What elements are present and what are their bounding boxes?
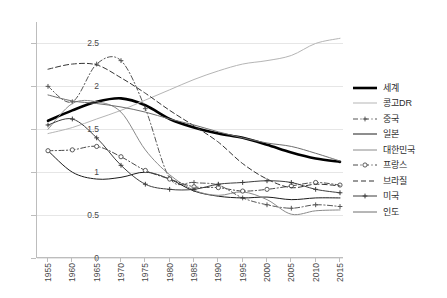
x-axis-tick-label: 1955 [43,263,53,282]
x-axis-tick-mark [242,258,243,262]
data-point-marker [70,117,75,122]
y-axis-tick-label: 0.5 [73,210,99,220]
data-point-marker [265,187,269,191]
series-5 [48,100,340,214]
legend-swatch-icon [352,113,378,125]
x-axis-tick-label: 1980 [165,263,175,282]
data-point-marker [241,189,245,193]
y-axis-tick-mark [31,86,36,87]
y-axis-tick-mark [31,215,36,216]
data-point-marker [338,204,343,209]
x-axis-tick-mark [217,258,218,262]
legend-item-label: 미국 [383,190,399,202]
data-point-marker [70,148,74,152]
x-axis-tick-mark [193,258,194,262]
x-axis-tick-mark [96,258,97,262]
legend-item-3[interactable]: 중국 [352,111,444,127]
y-axis-tick-mark [31,43,36,44]
legend-item-8[interactable]: 미국 [352,189,444,205]
legend-item-6[interactable]: 프랑스 [352,158,444,174]
data-point-marker [313,187,318,192]
legend-swatch-icon [352,190,378,202]
legend-item-2[interactable]: 콩고DR [352,96,444,112]
y-axis-tick-label: 2 [73,81,99,91]
x-axis-tick-label: 2000 [262,263,272,282]
series-line [48,100,340,214]
data-point-marker [143,182,148,187]
x-axis-tick-mark [144,258,145,262]
legend: 세계콩고DR중국일본대한민국프랑스브라질미국인도 [352,80,444,220]
x-axis-tick-label: 1975 [140,263,150,282]
x-axis-tick-label: 1965 [92,263,102,282]
data-point-marker [265,178,270,183]
x-axis-tick-mark [169,258,170,262]
y-axis-tick-mark [31,129,36,130]
plot-area [36,22,343,258]
legend-item-label: 세계 [383,82,399,94]
x-axis-tick-label: 1995 [238,263,248,282]
y-axis-tick-label: 1 [73,167,99,177]
y-axis-tick-mark [31,172,36,173]
legend-item-label: 대한민국 [383,144,415,156]
legend-item-4[interactable]: 일본 [352,127,444,143]
data-point-marker [265,202,270,207]
data-point-marker [338,190,343,195]
x-axis-tick-label: 1985 [189,263,199,282]
y-axis-tick-label: 2.5 [73,38,99,48]
data-point-marker [192,180,197,185]
x-axis-tick-label: 2005 [286,263,296,282]
data-point-marker [240,180,245,185]
data-point-marker [289,206,294,211]
y-axis-tick-mark [31,258,36,259]
data-point-marker [167,187,172,192]
x-axis-tick-mark [266,258,267,262]
legend-item-label: 일본 [383,128,399,140]
legend-swatch-icon [352,144,378,156]
x-axis-tick-mark [47,258,48,262]
data-point-marker [168,177,172,181]
x-axis-tick-mark [120,258,121,262]
x-axis-tick-label: 1960 [67,263,77,282]
legend-swatch-icon [352,128,378,140]
x-axis-tick-mark [71,258,72,262]
legend-swatch-icon [352,159,378,171]
legend-item-label: 인도 [383,206,399,218]
x-axis-tick-mark [315,258,316,262]
data-point-marker [95,144,99,148]
data-point-marker [119,155,123,159]
y-axis-tick-label: 1.5 [73,124,99,134]
legend-item-1[interactable]: 세계 [352,80,444,96]
legend-swatch-icon [352,82,378,94]
legend-swatch-icon [352,175,378,187]
data-point-marker [338,183,342,187]
x-axis-tick-label: 1970 [116,263,126,282]
x-axis-tick-label: 2010 [311,263,321,282]
legend-swatch-icon [352,97,378,109]
x-axis-tick-label: 2015 [335,263,345,282]
data-point-marker [313,202,318,207]
legend-swatch-icon [352,206,378,218]
legend-item-9[interactable]: 인도 [352,204,444,220]
data-point-marker [143,168,147,172]
series-lines [37,22,344,258]
x-axis-tick-mark [339,258,340,262]
legend-item-7[interactable]: 브라질 [352,173,444,189]
legend-item-label: 콩고DR [383,97,412,109]
legend-item-label: 브라질 [383,175,407,187]
x-axis-tick-mark [290,258,291,262]
x-axis-tick-label: 1990 [213,263,223,282]
legend-item-label: 프랑스 [383,159,407,171]
legend-item-5[interactable]: 대한민국 [352,142,444,158]
line-chart: 00.511.522.5 195519601965197019751980198… [0,0,447,298]
data-point-marker [46,149,50,153]
legend-item-label: 중국 [383,113,399,125]
